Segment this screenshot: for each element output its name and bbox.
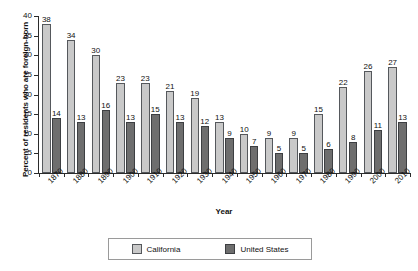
bar-value-label: 15 [314, 105, 323, 114]
bar-value-label: 10 [240, 125, 249, 134]
y-axis-tick-label: 5 [28, 148, 32, 157]
bar-united-states-1870: 14 [52, 118, 61, 173]
x-axis-tick-mark [187, 173, 188, 177]
bar-group: 2113 [163, 16, 188, 173]
x-axis-tick-mark [39, 173, 40, 177]
y-axis-tick-label: 15 [23, 109, 32, 118]
bar-value-label: 21 [166, 82, 175, 91]
y-axis-tick-label: 30 [23, 50, 32, 59]
bars-layer: 3814341330162313231521131912139107959515… [39, 16, 410, 173]
bar-california-1950: 10 [240, 134, 249, 173]
bar-california-1870: 38 [42, 24, 51, 173]
bar-value-label: 12 [200, 117, 209, 126]
x-axis-tick-mark [361, 173, 362, 177]
x-axis-tick-mark [163, 173, 164, 177]
bar-value-label: 8 [351, 133, 355, 142]
bar-california-1900: 23 [116, 83, 125, 173]
bar-value-label: 38 [42, 15, 51, 24]
bar-group: 3814 [39, 16, 64, 173]
bar-value-label: 9 [227, 129, 231, 138]
bar-group: 139 [212, 16, 237, 173]
bar-value-label: 27 [388, 58, 397, 67]
y-axis-tick-label: 0 [28, 168, 32, 177]
x-axis-tick-mark [410, 173, 411, 177]
bar-value-label: 9 [267, 129, 271, 138]
bar-value-label: 13 [398, 113, 407, 122]
bar-california-1980: 15 [314, 114, 323, 173]
bar-group: 156 [311, 16, 336, 173]
bar-california-1930: 19 [191, 98, 200, 173]
bar-value-label: 22 [339, 78, 348, 87]
bar-california-1890: 30 [92, 55, 101, 173]
x-axis-tick-mark [237, 173, 238, 177]
x-axis-tick-mark [385, 173, 386, 177]
bar-california-1940: 13 [215, 122, 224, 173]
x-axis-tick-mark [262, 173, 263, 177]
bar-value-label: 16 [101, 101, 110, 110]
bar-group: 107 [237, 16, 262, 173]
bar-value-label: 19 [190, 89, 199, 98]
bar-chart: Percent of residents who are foreign-bor… [0, 0, 418, 271]
y-axis-tick-label: 20 [23, 90, 32, 99]
bar-california-1910: 23 [141, 83, 150, 173]
bar-united-states-1920: 13 [176, 122, 185, 173]
x-axis-tick-mark [286, 173, 287, 177]
bar-value-label: 6 [326, 140, 330, 149]
x-axis-tick-mark [113, 173, 114, 177]
bar-united-states-1880: 13 [77, 122, 86, 173]
bar-value-label: 34 [67, 31, 76, 40]
bar-value-label: 11 [374, 121, 382, 130]
bar-united-states-1890: 16 [102, 110, 111, 173]
legend-label-united-states: United States [240, 245, 288, 254]
legend-item-california: California [132, 244, 181, 254]
bar-value-label: 5 [301, 144, 305, 153]
bar-group: 3413 [64, 16, 89, 173]
bar-california-1960: 9 [265, 138, 274, 173]
bar-value-label: 23 [141, 74, 150, 83]
x-axis-tick-mark [336, 173, 337, 177]
chart-legend: California United States [108, 238, 312, 260]
bar-group: 2315 [138, 16, 163, 173]
bar-california-2000: 26 [364, 71, 373, 173]
bar-value-label: 26 [363, 62, 372, 71]
y-axis-tick-label: 10 [23, 129, 32, 138]
bar-group: 3016 [88, 16, 113, 173]
x-axis-tick-mark [64, 173, 65, 177]
bar-value-label: 9 [291, 129, 295, 138]
bar-california-2010: 27 [388, 67, 397, 173]
bar-california-1990: 22 [339, 87, 348, 173]
x-axis-tick-mark [212, 173, 213, 177]
bar-group: 228 [336, 16, 361, 173]
x-axis-tick-mark [311, 173, 312, 177]
plot-area: 0510152025303540 38143413301623132315211… [38, 16, 410, 173]
bar-group: 1912 [187, 16, 212, 173]
bar-group: 2313 [113, 16, 138, 173]
bar-value-label: 14 [52, 109, 61, 118]
bar-group: 95 [262, 16, 287, 173]
bar-value-label: 13 [126, 113, 135, 122]
bar-california-1920: 21 [166, 91, 175, 173]
bar-value-label: 13 [215, 113, 224, 122]
x-axis-title: Year [38, 207, 410, 216]
bar-value-label: 5 [277, 144, 281, 153]
legend-swatch-california-icon [132, 244, 142, 254]
y-axis-tick-label: 35 [23, 31, 32, 40]
x-axis-tick-mark [138, 173, 139, 177]
bar-value-label: 15 [151, 105, 160, 114]
y-axis-title: Percent of residents who are foreign-bor… [21, 15, 30, 185]
legend-swatch-united-states-icon [225, 244, 235, 254]
legend-item-united-states: United States [225, 244, 288, 254]
x-axis-tick-mark [88, 173, 89, 177]
y-axis-tick-label: 40 [23, 11, 32, 20]
bar-california-1880: 34 [67, 40, 76, 173]
bar-group: 95 [286, 16, 311, 173]
bar-group: 2611 [361, 16, 386, 173]
bar-value-label: 23 [116, 74, 125, 83]
bar-group: 2713 [385, 16, 410, 173]
bar-value-label: 7 [252, 137, 256, 146]
bar-california-1970: 9 [289, 138, 298, 173]
bar-value-label: 30 [91, 46, 100, 55]
bar-value-label: 13 [77, 113, 86, 122]
legend-label-california: California [147, 245, 181, 254]
y-axis-tick-label: 25 [23, 70, 32, 79]
